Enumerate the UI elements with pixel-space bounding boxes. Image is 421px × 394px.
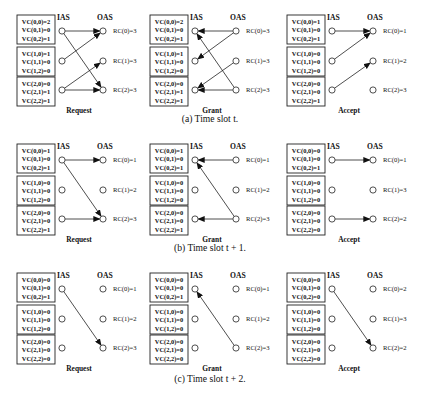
oas-port-node xyxy=(233,58,239,64)
vc-group: VC(1,0)=0VC(1,1)=0VC(1,2)=0 xyxy=(287,47,325,76)
ias-label: IAS xyxy=(327,142,340,151)
vc-counter-text: VC(0,0)=2 xyxy=(22,18,50,26)
ias-port-node xyxy=(329,216,335,222)
ias-port-node xyxy=(59,316,65,322)
vc-group: VC(0,0)=1VC(0,1)=0VC(0,2)=1 xyxy=(150,144,188,173)
ias-label: IAS xyxy=(190,271,203,280)
vc-counter-text: VC(2,0)=0 xyxy=(155,338,183,346)
ias-port-node xyxy=(192,157,198,163)
accept-arrow xyxy=(334,292,371,346)
oas-port-node xyxy=(233,216,239,222)
ias-port-node xyxy=(329,157,335,163)
vc-group: VC(2,0)=0VC(2,1)=0VC(2,2)=0 xyxy=(287,335,325,364)
vc-counter-text: VC(0,2)=1 xyxy=(155,164,183,172)
oas-port-node xyxy=(100,286,106,292)
vc-group: VC(0,0)=2VC(0,1)=0VC(0,2)=1 xyxy=(150,15,188,44)
vc-counter-text: VC(1,2)=0 xyxy=(155,325,183,333)
ias-port-node xyxy=(192,58,198,64)
oas-label: OAS xyxy=(367,271,383,280)
rc-counter-label: RC(0)=1 xyxy=(113,285,137,293)
vc-counter-text: VC(0,1)=0 xyxy=(22,284,50,292)
panel-title: Request xyxy=(66,364,92,373)
ias-port-node xyxy=(192,28,198,34)
panel-title: Grant xyxy=(202,364,222,373)
vc-group: VC(2,0)=0VC(2,1)=0VC(2,2)=1 xyxy=(17,206,55,235)
ias-label: IAS xyxy=(57,271,70,280)
vc-counter-text: VC(1,2)=0 xyxy=(155,196,183,204)
ias-port-node xyxy=(192,286,198,292)
rc-counter-label: RC(0)=3 xyxy=(113,27,137,35)
vc-group: VC(0,0)=0VC(0,1)=0VC(0,2)=1 xyxy=(287,144,325,173)
vc-group: VC(1,0)=0VC(1,1)=0VC(1,2)=0 xyxy=(150,305,188,334)
vc-counter-text: VC(1,0)=0 xyxy=(22,179,50,187)
vc-counter-text: VC(2,0)=0 xyxy=(22,338,50,346)
vc-counter-text: VC(2,2)=1 xyxy=(292,97,320,105)
panel-title: Request xyxy=(66,106,92,115)
rc-counter-label: RC(2)=3 xyxy=(113,86,137,94)
vc-counter-text: VC(2,2)=0 xyxy=(292,226,320,234)
grant-arrow xyxy=(198,33,234,59)
vc-counter-text: VC(0,1)=0 xyxy=(22,155,50,163)
ias-port-node xyxy=(59,286,65,292)
rc-counter-label: RC(2)=2 xyxy=(383,215,407,223)
ias-label: IAS xyxy=(190,13,203,22)
vc-counter-text: VC(2,0)=0 xyxy=(155,209,183,217)
rc-counter-label: RC(2)=3 xyxy=(113,344,137,352)
vc-counter-text: VC(0,1)=0 xyxy=(155,284,183,292)
ias-label: IAS xyxy=(57,142,70,151)
oas-port-node xyxy=(100,316,106,322)
vc-counter-text: VC(1,1)=0 xyxy=(155,58,183,66)
ias-port-node xyxy=(329,187,335,193)
vc-counter-text: VC(0,2)=1 xyxy=(22,164,50,172)
ias-port-node xyxy=(329,87,335,93)
vc-counter-text: VC(0,2)=1 xyxy=(155,35,183,43)
rc-counter-label: RC(2)=3 xyxy=(246,344,270,352)
vc-counter-text: VC(0,2)=1 xyxy=(22,293,50,301)
rc-counter-label: RC(2)=3 xyxy=(246,86,270,94)
ias-port-node xyxy=(329,28,335,34)
vc-group: VC(0,0)=0VC(0,1)=0VC(0,2)=1 xyxy=(150,273,188,302)
oas-port-node xyxy=(233,87,239,93)
vc-group: VC(2,0)=0VC(2,1)=1VC(2,2)=1 xyxy=(150,77,188,106)
vc-counter-text: VC(0,0)=0 xyxy=(22,276,50,284)
panel-request: IASOASVC(0,0)=2VC(0,1)=0VC(0,2)=1VC(1,0)… xyxy=(17,13,137,115)
oas-label: OAS xyxy=(230,142,246,151)
panel-title: Accept xyxy=(338,235,360,244)
oas-label: OAS xyxy=(97,142,113,151)
ias-port-node xyxy=(192,345,198,351)
grant-arrow xyxy=(197,34,234,88)
vc-counter-text: VC(0,1)=0 xyxy=(292,26,320,34)
vc-counter-text: VC(2,1)=0 xyxy=(292,88,320,96)
vc-counter-text: VC(1,2)=0 xyxy=(22,67,50,75)
rc-counter-label: RC(1)=3 xyxy=(246,57,270,65)
vc-group: VC(2,0)=0VC(2,1)=0VC(2,2)=0 xyxy=(150,335,188,364)
oas-label: OAS xyxy=(230,271,246,280)
vc-counter-text: VC(1,1)=0 xyxy=(155,187,183,195)
vc-group: VC(0,0)=1VC(0,1)=0VC(0,2)=1 xyxy=(287,15,325,44)
vc-counter-text: VC(2,1)=1 xyxy=(22,88,50,96)
vc-counter-text: VC(0,1)=0 xyxy=(155,26,183,34)
panel-title: Accept xyxy=(338,106,360,115)
vc-group: VC(1,0)=0VC(1,1)=0VC(1,2)=0 xyxy=(287,176,325,205)
panel-accept: IASOASVC(0,0)=0VC(0,1)=0VC(0,2)=0VC(1,0)… xyxy=(287,271,407,373)
vc-counter-text: VC(1,1)=0 xyxy=(292,58,320,66)
request-arrow xyxy=(64,292,101,346)
vc-counter-text: VC(2,2)=1 xyxy=(22,97,50,105)
rc-counter-label: RC(0)=2 xyxy=(383,285,407,293)
vc-counter-text: VC(0,0)=1 xyxy=(155,147,183,155)
oas-port-node xyxy=(370,286,376,292)
vc-counter-text: VC(1,0)=0 xyxy=(155,308,183,316)
ias-port-node xyxy=(192,187,198,193)
rc-counter-label: RC(2)=3 xyxy=(246,215,270,223)
rc-counter-label: RC(1)=2 xyxy=(113,186,137,194)
vc-counter-text: VC(0,0)=0 xyxy=(155,276,183,284)
ias-port-node xyxy=(329,286,335,292)
oas-port-node xyxy=(370,87,376,93)
vc-counter-text: VC(2,0)=0 xyxy=(155,80,183,88)
vc-counter-text: VC(0,1)=0 xyxy=(155,155,183,163)
vc-counter-text: VC(2,2)=0 xyxy=(155,355,183,363)
rc-counter-label: RC(2)=3 xyxy=(383,86,407,94)
oas-port-node xyxy=(100,157,106,163)
rc-counter-label: RC(0)=1 xyxy=(383,27,407,35)
vc-counter-text: VC(1,0)=0 xyxy=(155,179,183,187)
